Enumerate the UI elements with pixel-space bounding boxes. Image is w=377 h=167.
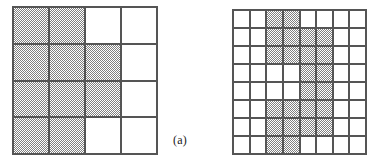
- grid-cell: [334, 119, 351, 137]
- grid-cell: [86, 8, 122, 45]
- grid-cell: [317, 119, 334, 137]
- grid-cell: [86, 45, 122, 82]
- grid-cell: [350, 11, 367, 29]
- grid-cell: [50, 82, 86, 119]
- grid-cell: [317, 101, 334, 119]
- grid-cell: [122, 118, 158, 155]
- grid-cell: [350, 83, 367, 101]
- grid-cell: [50, 45, 86, 82]
- grid-cell: [350, 137, 367, 155]
- grid-cell: [284, 101, 301, 119]
- grid-cell: [301, 137, 318, 155]
- grid-cell: [334, 137, 351, 155]
- grid-cell: [284, 11, 301, 29]
- grid-cell: [301, 65, 318, 83]
- grid-cell: [301, 83, 318, 101]
- grid-cell: [251, 11, 268, 29]
- grid-cell: [234, 47, 251, 65]
- grid-cell: [334, 29, 351, 47]
- grid-cell: [334, 65, 351, 83]
- grid-cell: [234, 119, 251, 137]
- grid-cell: [267, 137, 284, 155]
- grid-cell: [301, 47, 318, 65]
- grid-cell: [284, 65, 301, 83]
- fine-grid: [232, 9, 367, 155]
- coarse-grid: [12, 6, 158, 155]
- grid-cell: [14, 45, 50, 82]
- grid-cell: [317, 47, 334, 65]
- grid-cell: [334, 47, 351, 65]
- grid-cell: [234, 101, 251, 119]
- grid-cell: [317, 11, 334, 29]
- grid-cell: [251, 119, 268, 137]
- grid-cell: [234, 11, 251, 29]
- grid-cell: [86, 118, 122, 155]
- grid-cell: [334, 11, 351, 29]
- grid-cell: [251, 47, 268, 65]
- grid-cell: [14, 118, 50, 155]
- grid-cell: [334, 83, 351, 101]
- grid-cell: [284, 47, 301, 65]
- grid-cell: [14, 8, 50, 45]
- grid-cell: [267, 11, 284, 29]
- grid-cell: [301, 101, 318, 119]
- grid-cell: [267, 65, 284, 83]
- grid-cell: [284, 119, 301, 137]
- grid-cell: [301, 29, 318, 47]
- grid-cell: [234, 65, 251, 83]
- grid-cell: [251, 101, 268, 119]
- grid-cell: [234, 83, 251, 101]
- grid-cell: [350, 101, 367, 119]
- grid-cell: [234, 29, 251, 47]
- grid-cell: [350, 65, 367, 83]
- grid-cell: [251, 29, 268, 47]
- grid-cell: [267, 119, 284, 137]
- grid-cell: [50, 8, 86, 45]
- grid-cell: [350, 47, 367, 65]
- grid-cell: [50, 118, 86, 155]
- grid-cell: [301, 119, 318, 137]
- grid-cell: [284, 83, 301, 101]
- figure-canvas: (a): [0, 0, 377, 167]
- grid-cell: [317, 83, 334, 101]
- grid-cell: [317, 29, 334, 47]
- grid-cell: [301, 11, 318, 29]
- grid-cell: [267, 83, 284, 101]
- grid-cell: [14, 82, 50, 119]
- grid-cell: [234, 137, 251, 155]
- grid-cell: [317, 65, 334, 83]
- grid-cell: [350, 29, 367, 47]
- grid-cell: [284, 137, 301, 155]
- grid-cell: [251, 65, 268, 83]
- grid-cell: [267, 47, 284, 65]
- grid-cell: [267, 101, 284, 119]
- grid-cell: [334, 101, 351, 119]
- grid-cell: [122, 8, 158, 45]
- grid-cell: [86, 82, 122, 119]
- grid-cell: [251, 83, 268, 101]
- grid-cell: [350, 119, 367, 137]
- grid-cell: [122, 82, 158, 119]
- grid-cell: [317, 137, 334, 155]
- grid-cell: [267, 29, 284, 47]
- grid-cell: [284, 29, 301, 47]
- panel-label: (a): [173, 133, 187, 148]
- grid-cell: [251, 137, 268, 155]
- grid-cell: [122, 45, 158, 82]
